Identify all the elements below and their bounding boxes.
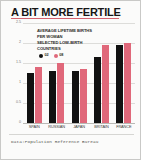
page-title: A BIT MORE FERTILE [11, 6, 121, 18]
legend-label: 08 [59, 54, 63, 58]
y-axis-tick: 2 [19, 41, 21, 45]
bar [27, 73, 34, 123]
bar [49, 71, 56, 123]
chart-annotation: AVERAGE LIFETIME BIRTHS PER WOMAN SELECT… [37, 28, 117, 58]
x-axis-label: RUSSIAN [45, 125, 67, 129]
caption-divider [9, 134, 134, 135]
bar [72, 71, 79, 123]
bar [94, 57, 101, 123]
legend-item-08: 08 [54, 54, 64, 58]
legend-label: 02 [45, 54, 49, 58]
y-axis-tick: 2.5 [16, 21, 21, 25]
bar [124, 43, 131, 123]
y-axis-tick: 1 [19, 81, 21, 85]
legend-swatch-icon [54, 54, 58, 58]
y-axis-tick: 0 [19, 121, 21, 125]
y-axis-tick: 0.5 [16, 101, 21, 105]
bar [35, 67, 42, 123]
x-axis-label: SPAIN [23, 125, 45, 129]
source-caption: Data:Population Reference Bureau [11, 139, 99, 144]
x-axis-labels: SPAINRUSSIANJAPANBRITAINFRANCE [23, 125, 135, 129]
legend-item-02: 02 [39, 54, 49, 58]
legend-swatch-icon [39, 54, 43, 58]
bar [57, 63, 64, 123]
annotation-line: COUNTRIES [37, 46, 117, 52]
x-axis-label: FRANCE [113, 125, 135, 129]
bar [116, 45, 123, 123]
title-underline-rule [11, 18, 119, 19]
chart-figure: A BIT MORE FERTILE 2.5 2 1.5 1 0.5 0 SPA… [0, 0, 141, 160]
x-axis-label: JAPAN [68, 125, 90, 129]
bar [80, 69, 87, 123]
chart-legend: 02 08 [37, 54, 117, 58]
x-axis-label: BRITAIN [90, 125, 112, 129]
y-axis-tick: 1.5 [16, 61, 21, 65]
